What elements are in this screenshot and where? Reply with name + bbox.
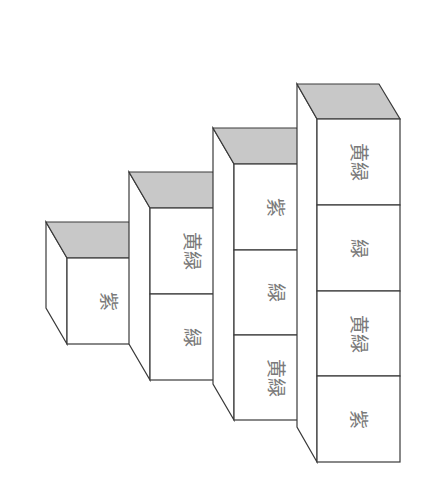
- cube-label: 黄緑: [348, 143, 370, 181]
- cube-label: 黄緑: [348, 315, 370, 353]
- cube-label: 緑: [265, 283, 287, 302]
- cube-label: 緑: [181, 328, 203, 347]
- column-3-side-face: [213, 128, 234, 420]
- cube-label: 紫: [98, 292, 120, 311]
- column-4-side-face: [297, 84, 317, 462]
- column-4: 黄緑 緑 黄緑 紫: [297, 84, 400, 462]
- cube-label: 黄緑: [265, 359, 287, 397]
- cube-label: 緑: [348, 239, 370, 258]
- diagram-canvas: 紫 黄緑 緑 紫 緑 黄緑 黄緑 緑 黄緑 紫: [0, 0, 427, 481]
- cube-label: 黄緑: [181, 232, 203, 270]
- cube-label: 紫: [348, 410, 370, 429]
- cube-staircase-diagram: 紫 黄緑 緑 紫 緑 黄緑 黄緑 緑 黄緑 紫: [0, 0, 427, 481]
- cube-label: 紫: [265, 198, 287, 217]
